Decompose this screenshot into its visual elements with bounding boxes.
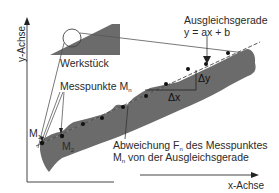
fit-line-title: Ausgleichsgerade bbox=[184, 15, 267, 26]
point-m2 bbox=[60, 134, 64, 138]
point bbox=[81, 122, 85, 126]
measure-points-text: Messpunkte M bbox=[60, 80, 128, 92]
y-axis-arrow-icon bbox=[24, 17, 30, 25]
workpiece-shape bbox=[50, 24, 120, 55]
deviation-text2-a: M bbox=[113, 151, 122, 163]
deviation-text-a: Abweichung F bbox=[113, 139, 180, 151]
m1-label: M1 bbox=[29, 128, 41, 143]
leader bbox=[61, 92, 64, 132]
point bbox=[144, 94, 148, 98]
fit-line-arrow-icon bbox=[203, 56, 211, 64]
deviation-label-line2: Mn von der Ausgleichsgerade bbox=[113, 152, 249, 167]
m1-sub: 1 bbox=[38, 134, 41, 140]
point bbox=[121, 105, 125, 109]
y-axis-label: y-Achse bbox=[16, 26, 27, 62]
delta-y-label: Δy bbox=[198, 73, 210, 84]
deviation-text2-b: von der Ausgleichsgerade bbox=[125, 151, 249, 163]
deviation-text-b: des Messpunktes bbox=[183, 139, 268, 151]
point bbox=[164, 82, 168, 86]
measure-points-sub: n bbox=[128, 87, 131, 93]
x-axis-label: x-Achse bbox=[228, 180, 264, 191]
measure-points-label: Messpunkte Mn bbox=[60, 81, 132, 96]
delta-x-label: Δx bbox=[168, 92, 180, 103]
m2-label: M2 bbox=[62, 141, 74, 156]
m1-text: M bbox=[29, 127, 38, 139]
m2-text: M bbox=[62, 140, 71, 152]
point bbox=[226, 51, 230, 55]
point bbox=[186, 67, 190, 71]
m2-sub: 2 bbox=[71, 147, 74, 153]
x-axis-arrow-icon bbox=[251, 172, 259, 178]
point bbox=[100, 116, 104, 120]
fit-line-equation: y = ax + b bbox=[184, 27, 230, 38]
workpiece-label: Werkstück bbox=[60, 58, 109, 69]
